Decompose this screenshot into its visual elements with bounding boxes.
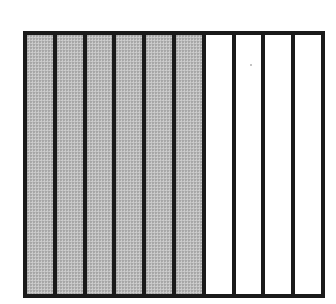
unshaded-part-7 — [206, 35, 236, 294]
shaded-part-5 — [146, 35, 176, 294]
shaded-part-3 — [87, 35, 117, 294]
shaded-part-1 — [27, 35, 57, 294]
unshaded-part-10 — [295, 35, 321, 294]
shaded-part-2 — [57, 35, 87, 294]
shaded-part-4 — [116, 35, 146, 294]
fraction-rectangle — [23, 31, 325, 298]
shaded-part-6 — [176, 35, 206, 294]
unshaded-part-8 — [236, 35, 266, 294]
unshaded-part-9 — [265, 35, 295, 294]
speck-mark — [250, 64, 252, 66]
